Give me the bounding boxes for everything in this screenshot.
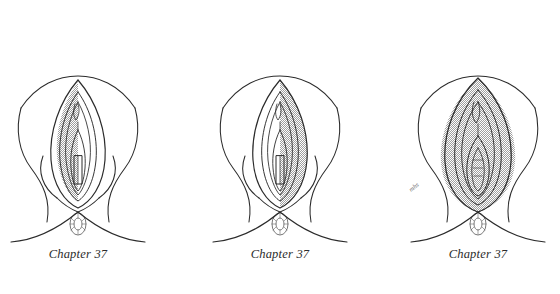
anatomical-illustration-2 [187,44,373,244]
figure-panel-1: Chapter 37 [0,0,171,294]
anatomical-illustration-3: mhs [385,44,560,244]
figure-panel-2: Chapter 37 [187,0,373,294]
figure-panel-3: mhs Chapter 37 [385,0,560,294]
anatomical-illustration-1 [0,44,171,244]
panel-caption-3: Chapter 37 [385,247,560,262]
artist-signature: mhs [407,181,420,193]
panel-caption-1: Chapter 37 [0,247,171,262]
panel-caption-2: Chapter 37 [187,247,373,262]
figure-plate: Chapter 37 [0,0,560,294]
shading-region [441,78,515,212]
